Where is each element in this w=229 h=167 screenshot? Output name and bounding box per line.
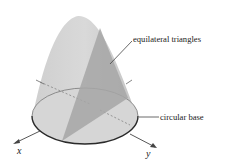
axis-tick-right [126,80,132,84]
y-axis-arrowhead [150,143,157,148]
solid-with-circular-base-diagram: x y equilateral triangles circular base [0,0,229,167]
triangles-label: equilateral triangles [133,34,202,44]
y-axis [130,134,155,147]
base-label: circular base [160,112,204,122]
x-axis-label: x [16,145,22,156]
y-axis-label: y [145,148,151,159]
x-axis-arrowhead [13,139,20,144]
triangles-leader-line [110,41,132,64]
